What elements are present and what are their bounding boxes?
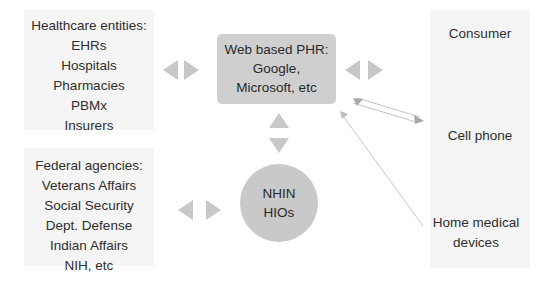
nhin-hio-circle: NHIN HIOs [240,164,318,242]
federal-item: NIH, etc [24,256,154,276]
phr-line: Google, [217,59,336,78]
phr-line: Microsoft, etc [217,78,336,97]
healthcare-item: EHRs [24,36,154,56]
federal-item: Veterans Affairs [24,176,154,196]
vertical-bidirectional-arrow-icon [269,113,289,153]
bidirectional-arrow-icon [178,200,221,220]
federal-item: Social Security [24,196,154,216]
cell-phone-label: Cell phone [430,126,530,146]
bidirectional-arrow-icon [345,60,383,80]
healthcare-entities-box: Healthcare entities: EHRs Hospitals Phar… [24,10,154,130]
healthcare-item: Insurers [24,116,154,136]
federal-item: Indian Affairs [24,236,154,256]
web-phr-box: Web based PHR: Google, Microsoft, etc [217,34,336,104]
nhin-line: NHIN [240,184,318,203]
bidirectional-arrow-icon [163,60,199,80]
healthcare-item: Pharmacies [24,76,154,96]
consumer-box: Consumer Cell phone Home medical devices [430,10,530,268]
cell-phone-link-icon [353,98,424,124]
federal-agencies-box: Federal agencies: Veterans Affairs Socia… [24,148,154,266]
federal-item: Dept. Defense [24,216,154,236]
healthcare-item: Hospitals [24,56,154,76]
phr-line: Web based PHR: [217,40,336,59]
healthcare-title: Healthcare entities: [24,16,154,36]
consumer-title: Consumer [430,24,530,44]
federal-title: Federal agencies: [24,156,154,176]
home-medical-devices-label: Home medical devices [422,213,530,253]
nhin-line: HIOs [240,203,318,222]
home-devices-link-icon [340,111,423,226]
healthcare-item: PBMx [24,96,154,116]
